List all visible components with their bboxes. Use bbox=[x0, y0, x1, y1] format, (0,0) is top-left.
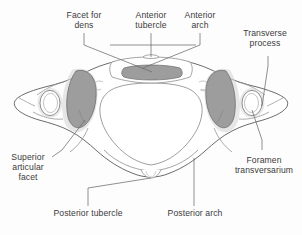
label-posterior-tubercle: Posterior tubercle bbox=[36, 208, 140, 218]
label-superior-articular-facet-line3: facet bbox=[4, 172, 52, 182]
label-superior-articular-facet-line1: Superior bbox=[4, 152, 52, 162]
label-superior-articular-facet-line2: articular bbox=[4, 162, 52, 172]
label-posterior-tubercle-line1: Posterior tubercle bbox=[36, 208, 140, 218]
facet-for-dens-shape bbox=[122, 65, 183, 80]
label-foramen-transversarium: Foramen transversarium bbox=[228, 155, 300, 175]
label-superior-articular-facet: Superior articular facet bbox=[4, 152, 52, 183]
label-facet-for-dens: Facet for dens bbox=[49, 10, 119, 30]
label-transverse-process-line1: Transverse bbox=[232, 28, 298, 38]
label-transverse-process: Transverse process bbox=[232, 28, 298, 48]
label-foramen-transversarium-line1: Foramen bbox=[228, 155, 300, 165]
label-facet-for-dens-line2: dens bbox=[49, 20, 119, 30]
anatomy-diagram-page: Facet for dens Anterior tubercle Anterio… bbox=[0, 0, 302, 235]
right-foramen-transversarium bbox=[240, 88, 265, 118]
label-transverse-process-line2: process bbox=[232, 38, 298, 48]
leader-posterior-tubercle bbox=[88, 178, 151, 206]
label-facet-for-dens-line1: Facet for bbox=[49, 10, 119, 20]
label-foramen-transversarium-line2: transversarium bbox=[228, 165, 300, 175]
anterior-arch-structure bbox=[110, 55, 193, 83]
label-anterior-arch-line1: Anterior bbox=[172, 10, 228, 20]
label-posterior-arch-line1: Posterior arch bbox=[155, 208, 235, 218]
label-anterior-arch: Anterior arch bbox=[172, 10, 228, 30]
label-posterior-arch: Posterior arch bbox=[155, 208, 235, 218]
label-anterior-arch-line2: arch bbox=[172, 20, 228, 30]
left-foramen-transversarium bbox=[38, 88, 63, 118]
